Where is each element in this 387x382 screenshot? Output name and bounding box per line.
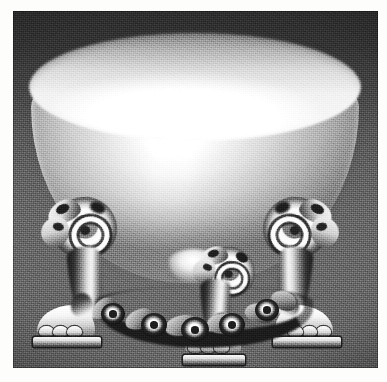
photograph-plate bbox=[13, 11, 378, 368]
photo-vignette bbox=[13, 11, 378, 368]
page-canvas bbox=[0, 0, 387, 382]
